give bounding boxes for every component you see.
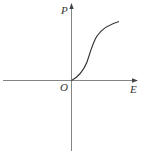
chart-canvas: P E O xyxy=(0,0,143,164)
x-axis-label: E xyxy=(129,83,137,95)
origin-label: O xyxy=(60,81,68,93)
p-e-curve xyxy=(72,22,120,81)
y-axis-label: P xyxy=(60,4,68,16)
